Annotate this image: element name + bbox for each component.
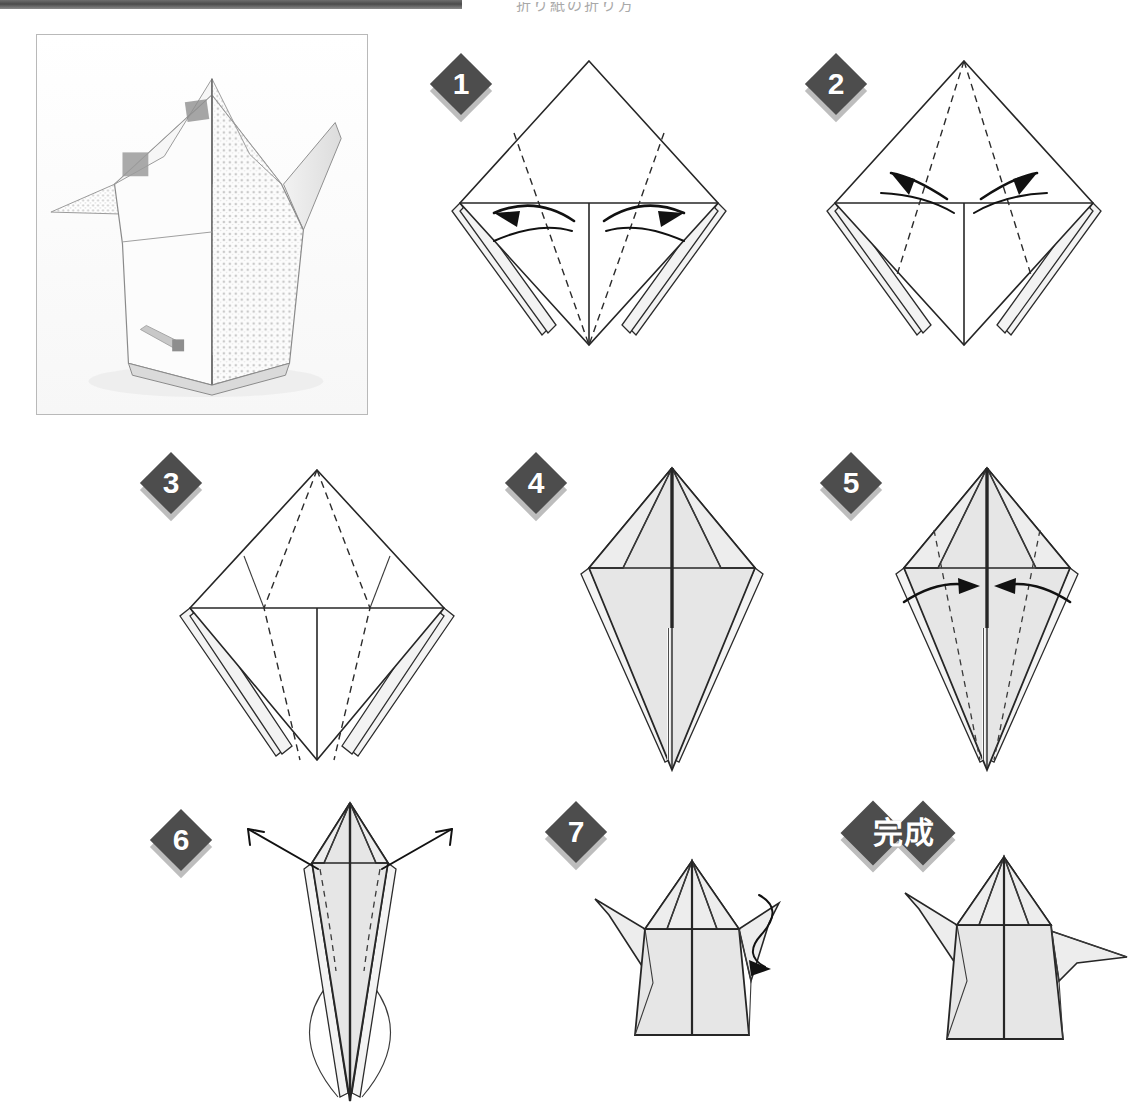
step-6: 6 [150, 795, 480, 1111]
step-5-number: 5 [820, 452, 882, 514]
step-2-badge: 2 [805, 53, 867, 115]
step-1-badge: 1 [430, 53, 492, 115]
step-3-diagram [172, 460, 462, 780]
step-7-number: 7 [545, 801, 607, 863]
step-3: 3 [140, 452, 460, 782]
finish-diagram [891, 853, 1145, 1063]
finish-label: 完成 [845, 799, 963, 867]
header-partial-text: 折り紙の折り方 [516, 0, 635, 14]
step-4-diagram [547, 460, 797, 780]
step-7-badge: 7 [545, 801, 607, 863]
step-6-badge: 6 [150, 809, 212, 871]
step-1: 1 [430, 45, 730, 395]
step-7-diagram [583, 857, 833, 1057]
step-4: 4 [505, 452, 805, 782]
step-4-badge: 4 [505, 452, 567, 514]
finished-origami-photo [36, 34, 368, 415]
step-3-badge: 3 [140, 452, 202, 514]
step-2: 2 [805, 45, 1105, 395]
step-2-number: 2 [805, 53, 867, 115]
step-1-number: 1 [430, 53, 492, 115]
step-5-badge: 5 [820, 452, 882, 514]
step-7: 7 [545, 795, 845, 1075]
step-4-number: 4 [505, 452, 567, 514]
step-3-number: 3 [140, 452, 202, 514]
step-6-number: 6 [150, 809, 212, 871]
step-5-diagram [862, 460, 1112, 780]
header-bar [0, 0, 462, 9]
step-5: 5 [820, 452, 1120, 782]
finish-badge: 完成 [845, 799, 963, 867]
step-finish: 完成 [845, 795, 1145, 1075]
step-6-diagram [220, 795, 480, 1111]
instruction-page: 折り紙の折り方 [0, 0, 1145, 1111]
